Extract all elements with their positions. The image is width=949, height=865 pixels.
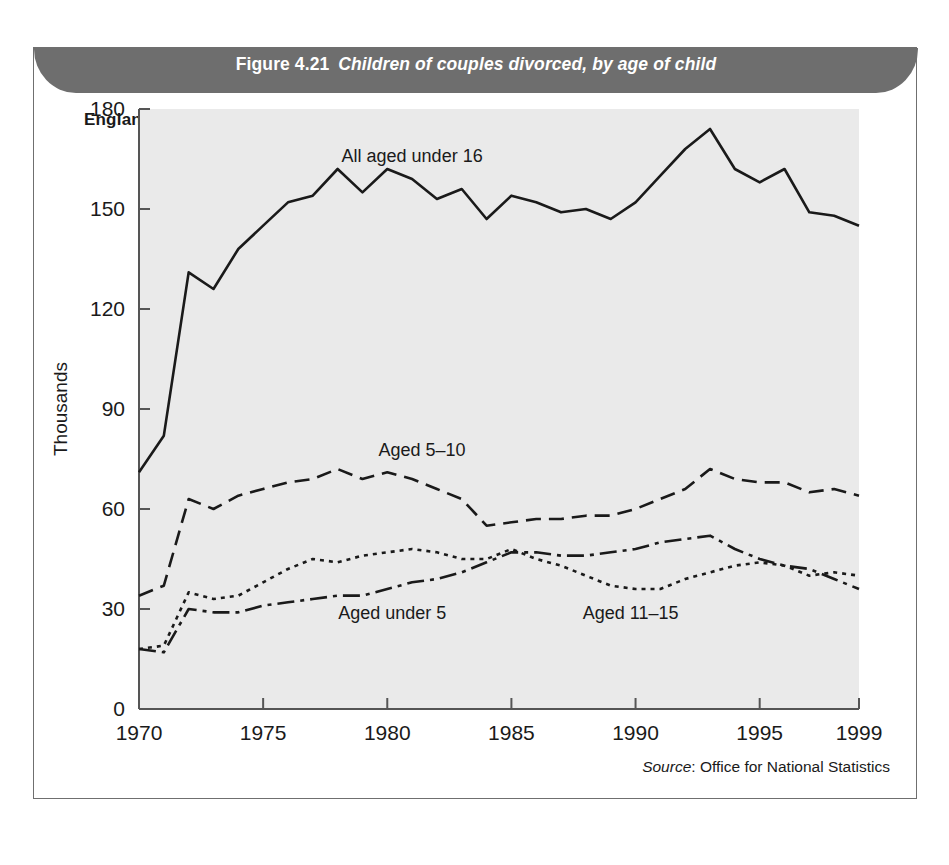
y-axis-tick-label: 90: [102, 397, 125, 420]
series-label-1: All aged under 16: [342, 146, 483, 166]
y-axis-tick-label: 150: [90, 197, 125, 220]
chart-area: 0306090120150180197019751980198519901995…: [34, 48, 918, 800]
y-axis-tick-label: 0: [113, 697, 125, 720]
y-axis-tick-label: 180: [90, 97, 125, 120]
x-axis-tick-label: 1999: [836, 721, 883, 744]
series-label-4: Aged 11–15: [583, 603, 679, 623]
x-axis-tick-label: 1995: [736, 721, 783, 744]
y-axis-title: Thousands: [50, 362, 71, 456]
figure-frame: Figure 4.21Children of couples divorced,…: [33, 47, 917, 799]
x-axis-tick-label: 1975: [240, 721, 287, 744]
source-label: Source: [642, 758, 691, 775]
x-axis-tick-label: 1990: [612, 721, 659, 744]
series-label-2: Aged 5–10: [378, 440, 465, 460]
y-axis-tick-label: 60: [102, 497, 125, 520]
source-note: Source: Office for National Statistics: [642, 758, 890, 776]
x-axis-tick-label: 1970: [116, 721, 163, 744]
y-axis-tick-label: 120: [90, 297, 125, 320]
line-chart-svg: 0306090120150180197019751980198519901995…: [34, 48, 918, 800]
series-label-3: Aged under 5: [338, 603, 446, 623]
x-axis-tick-label: 1985: [488, 721, 535, 744]
plot-background: [139, 109, 859, 709]
x-axis-tick-label: 1980: [364, 721, 411, 744]
source-text: : Office for National Statistics: [691, 758, 890, 775]
y-axis-tick-label: 30: [102, 597, 125, 620]
